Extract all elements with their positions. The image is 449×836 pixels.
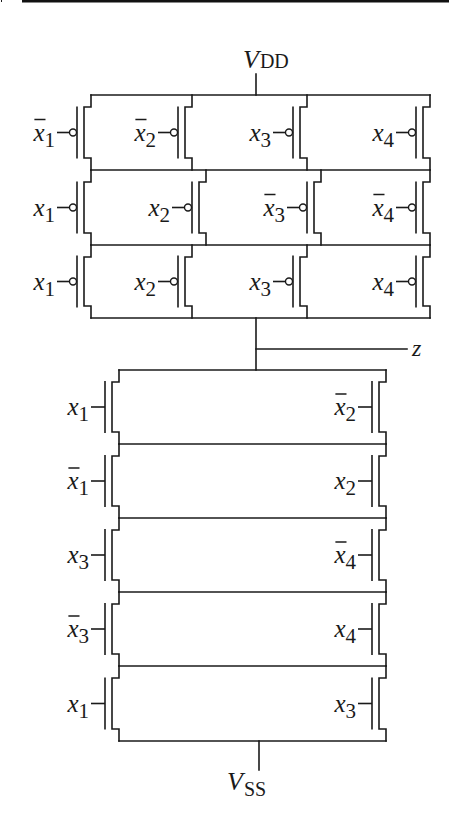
pmos-label-r3-c4: x4 <box>371 268 394 301</box>
channel-path <box>379 666 386 741</box>
inversion-bubble-icon <box>286 278 293 285</box>
nmos-label-r3-c2: x4 <box>333 541 356 574</box>
nmos-label-r4-c1: x3 <box>66 615 89 648</box>
nmos-r2-c1 <box>91 444 119 518</box>
nmos-label-r5-c2: x3 <box>333 690 356 723</box>
vss-label: VSS <box>227 767 266 800</box>
pmos-label-r1-c1: x1 <box>32 119 55 152</box>
inversion-bubble-icon <box>171 129 178 136</box>
nmos-r5-c2 <box>358 666 386 741</box>
channel-path <box>423 95 430 170</box>
output-z-label: z <box>411 335 422 361</box>
channel-path <box>423 170 430 245</box>
nmos-label-r1-c2: x2 <box>333 393 356 426</box>
nmos-r1-c1 <box>91 370 119 444</box>
pmos-r2-c1 <box>57 170 91 245</box>
nmos-label-r2-c2: x2 <box>333 467 356 500</box>
channel-path <box>84 245 91 318</box>
nmos-r2-c2 <box>358 444 386 518</box>
pmos-label-r2-c4: x4 <box>371 194 394 227</box>
nmos-r4-c1 <box>91 592 119 666</box>
channel-path <box>199 170 206 245</box>
channel-path <box>185 95 192 170</box>
pmos-r1-c4 <box>396 95 430 170</box>
nmos-label-r3-c1: x3 <box>66 541 89 574</box>
nmos-r4-c2 <box>358 592 386 666</box>
pmos-r1-c2 <box>158 95 192 170</box>
nmos-label-r4-c2: x4 <box>333 615 356 648</box>
channel-path <box>379 518 386 592</box>
pmos-label-r1-c2: x2 <box>133 119 156 152</box>
channel-path <box>379 444 386 518</box>
inversion-bubble-icon <box>70 204 77 211</box>
channel-path <box>423 245 430 318</box>
vdd-label: VDD <box>243 45 289 74</box>
pmos-r2-c2 <box>172 170 206 245</box>
channel-path <box>112 444 119 518</box>
pmos-r1-c1 <box>57 95 91 170</box>
nmos-r5-c1 <box>91 666 119 741</box>
nmos-label-r5-c1: x1 <box>66 690 89 723</box>
pmos-label-r2-c2: x2 <box>147 194 170 227</box>
pmos-label-r3-c2: x2 <box>133 268 156 301</box>
pmos-r3-c4 <box>396 245 430 318</box>
cmos-schematic: VDD VSS z x1x2x3x4x1x2x3x4x1x2x3x4x1x2x1… <box>0 0 449 836</box>
channel-path <box>84 170 91 245</box>
channel-path <box>379 592 386 666</box>
pmos-r1-c3 <box>273 95 307 170</box>
inversion-bubble-icon <box>409 278 416 285</box>
channel-path <box>300 245 307 318</box>
channel-path <box>314 170 321 245</box>
channel-path <box>185 245 192 318</box>
nmos-label-r1-c1: x1 <box>66 393 89 426</box>
transistors <box>57 95 430 741</box>
pmos-r3-c2 <box>158 245 192 318</box>
nmos-r1-c2 <box>358 370 386 444</box>
inversion-bubble-icon <box>70 278 77 285</box>
nmos-r3-c1 <box>91 518 119 592</box>
pmos-r3-c1 <box>57 245 91 318</box>
schematic-canvas: VDD VSS z x1x2x3x4x1x2x3x4x1x2x3x4x1x2x1… <box>0 0 449 836</box>
pmos-r3-c3 <box>273 245 307 318</box>
pmos-label-r1-c3: x3 <box>248 119 271 152</box>
pmos-label-r2-c1: x1 <box>32 194 55 227</box>
channel-path <box>112 666 119 741</box>
channel-path <box>379 370 386 444</box>
inversion-bubble-icon <box>171 278 178 285</box>
channel-path <box>112 518 119 592</box>
inversion-bubble-icon <box>300 204 307 211</box>
top-rule <box>22 0 449 3</box>
inversion-bubble-icon <box>286 129 293 136</box>
inversion-bubble-icon <box>409 204 416 211</box>
pmos-label-r3-c3: x3 <box>248 268 271 301</box>
channel-path <box>112 370 119 444</box>
gate-labels: x1x2x3x4x1x2x3x4x1x2x3x4x1x2x1x2x3x4x3x4… <box>1 1 395 723</box>
channel-path <box>84 95 91 170</box>
channel-path <box>300 95 307 170</box>
pmos-r2-c3 <box>287 170 321 245</box>
channel-path <box>112 592 119 666</box>
pmos-label-r2-c3: x3 <box>262 194 285 227</box>
nmos-r3-c2 <box>358 518 386 592</box>
pmos-label-r3-c1: x1 <box>32 268 55 301</box>
pmos-label-r1-c4: x4 <box>371 119 394 152</box>
inversion-bubble-icon <box>70 129 77 136</box>
pmos-r2-c4 <box>396 170 430 245</box>
inversion-bubble-icon <box>185 204 192 211</box>
nmos-label-r2-c1: x1 <box>66 467 89 500</box>
inversion-bubble-icon <box>409 129 416 136</box>
